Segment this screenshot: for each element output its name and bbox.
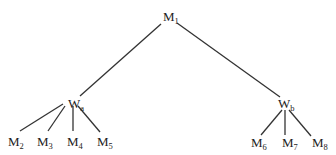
node-base-label: M <box>312 135 324 150</box>
node-subscript: 3 <box>49 141 53 151</box>
node-base-label: M <box>163 9 175 24</box>
node-subscript: 7 <box>294 142 298 152</box>
node-base-label: W <box>278 96 291 111</box>
tree-nodes: M1WaWbM2M3M4M5M6M7M8 <box>8 9 328 152</box>
node-subscript: 8 <box>324 142 328 152</box>
node-m7: M7 <box>282 135 298 152</box>
node-base-label: W <box>68 96 81 111</box>
node-m1: M1 <box>163 9 179 26</box>
edge-wb-m6 <box>261 110 282 135</box>
node-m3: M3 <box>37 134 53 151</box>
node-subscript: 4 <box>79 141 84 151</box>
edge-m1-wa <box>80 24 161 96</box>
node-m8: M8 <box>312 135 328 152</box>
tree-edges <box>20 23 311 136</box>
node-subscript: 5 <box>109 141 113 151</box>
node-subscript: 6 <box>263 142 267 152</box>
edge-wa-m3 <box>48 106 65 131</box>
node-base-label: M <box>282 135 294 150</box>
node-wa: Wa <box>68 96 84 113</box>
node-base-label: M <box>67 134 79 149</box>
node-m6: M6 <box>251 135 267 152</box>
node-m5: M5 <box>97 134 113 151</box>
node-base-label: M <box>8 134 20 149</box>
node-m2: M2 <box>8 134 24 151</box>
node-subscript: 2 <box>20 141 24 151</box>
edge-m1-wb <box>177 23 280 97</box>
tree-diagram: M1WaWbM2M3M4M5M6M7M8 <box>0 0 336 155</box>
node-subscript: a <box>80 103 84 113</box>
node-m4: M4 <box>67 134 84 151</box>
node-wb: Wb <box>278 96 295 113</box>
node-subscript: b <box>290 103 294 113</box>
edge-wb-m8 <box>289 110 311 136</box>
node-base-label: M <box>97 134 109 149</box>
node-base-label: M <box>251 135 263 150</box>
node-subscript: 1 <box>175 16 179 26</box>
node-base-label: M <box>37 134 49 149</box>
